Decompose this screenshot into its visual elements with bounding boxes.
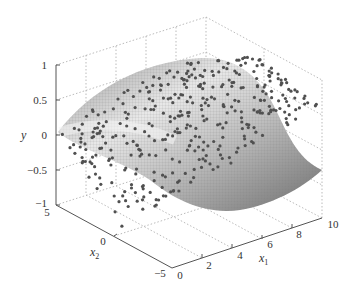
svg-text:−5: −5: [154, 267, 166, 279]
x1-tick-labels: 0 2 4 6 8 10: [177, 218, 339, 281]
x1-axis-label: x1: [258, 251, 268, 267]
svg-text:0: 0: [177, 269, 183, 281]
x2-axis-label: x2: [89, 245, 99, 261]
3d-surface-scatter-plot: 1 0.5 0 −0.5 −1 5 0 −5 0 2 4 6 8 10 y x2…: [0, 0, 351, 291]
svg-text:0: 0: [100, 235, 106, 247]
svg-text:1: 1: [42, 59, 48, 71]
x2-tick-labels: 5 0 −5: [44, 206, 166, 279]
svg-text:4: 4: [237, 249, 243, 261]
y-axis-label: y: [20, 128, 27, 142]
svg-text:10: 10: [328, 218, 340, 230]
svg-text:5: 5: [44, 206, 50, 218]
svg-text:0: 0: [42, 129, 48, 141]
svg-text:2: 2: [206, 259, 212, 271]
z-tick-labels: 1 0.5 0 −0.5 −1: [27, 59, 47, 209]
svg-text:0.5: 0.5: [33, 94, 47, 106]
svg-text:−0.5: −0.5: [27, 164, 47, 176]
svg-text:6: 6: [267, 238, 273, 250]
svg-text:8: 8: [296, 228, 302, 240]
